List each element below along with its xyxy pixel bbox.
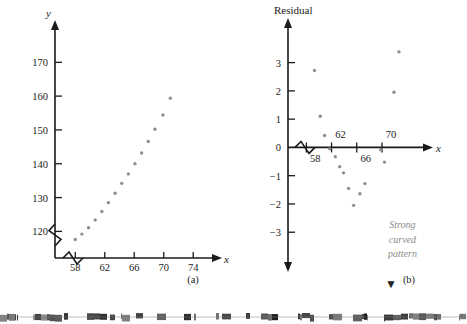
- y-tick-label: 0: [276, 142, 281, 153]
- x-tick-label: 70: [386, 129, 397, 140]
- x-tick-label: 66: [129, 262, 140, 273]
- y-tick-label: 1: [276, 114, 281, 125]
- y-tick-label: 170: [32, 57, 48, 68]
- data-point: [80, 232, 83, 235]
- data-point: [140, 151, 143, 154]
- figure-residual-analysis: 5862667074120130140150160170xy 586266703…: [0, 0, 467, 324]
- panel-b-residual-plot: 586266703210−1−2−3xResidual: [233, 0, 467, 296]
- scatterplot-svg: 5862667074120130140150160170xy: [0, 0, 233, 296]
- x-axis-label: x: [223, 253, 229, 265]
- residual-point: [392, 91, 395, 94]
- data-point: [153, 128, 156, 131]
- data-point: [133, 162, 136, 165]
- annotation-line: Strong: [388, 218, 417, 233]
- y-tick-label: 2: [276, 86, 281, 97]
- data-point: [100, 210, 103, 213]
- residual-plot-svg: 586266703210−1−2−3xResidual: [233, 0, 467, 296]
- data-point: [161, 113, 164, 116]
- residual-point: [328, 147, 331, 150]
- residual-point: [379, 148, 382, 151]
- data-point: [127, 172, 130, 175]
- data-point: [87, 226, 90, 229]
- x-tick-label: 58: [70, 262, 81, 273]
- y-tick-label: −2: [270, 199, 281, 210]
- data-point: [120, 182, 123, 185]
- residual-point: [383, 160, 386, 163]
- y-tick-label: 140: [32, 159, 48, 170]
- residual-point: [347, 187, 350, 190]
- x-tick-label: 62: [100, 262, 111, 273]
- residual-point: [319, 115, 322, 118]
- curved-pattern-annotation: Strongcurvedpattern: [388, 218, 417, 262]
- residual-point: [334, 155, 337, 158]
- annotation-line: curved: [388, 233, 417, 248]
- data-point: [147, 140, 150, 143]
- y-tick-label: 160: [32, 91, 48, 102]
- y-axis-label: Residual: [274, 4, 313, 16]
- y-tick-label: 3: [276, 58, 281, 69]
- y-tick-label: −3: [270, 227, 281, 238]
- residual-point: [342, 171, 345, 174]
- residual-point: [363, 182, 366, 185]
- y-tick-label: 150: [32, 125, 48, 136]
- data-point: [107, 201, 110, 204]
- residual-point: [338, 165, 341, 168]
- page-artifact-mark: ▼: [385, 277, 397, 292]
- data-point: [169, 96, 172, 99]
- scan-artifact-strip: [0, 310, 467, 324]
- y-tick-label: −1: [270, 171, 281, 182]
- residual-point: [397, 50, 400, 53]
- residual-point: [323, 134, 326, 137]
- y-tick-label: 130: [32, 193, 48, 204]
- panel-a-scatterplot: 5862667074120130140150160170xy: [0, 0, 233, 296]
- y-tick-label: 120: [32, 226, 48, 237]
- x-tick-label: 66: [361, 153, 372, 164]
- residual-point: [358, 192, 361, 195]
- x-tick-label: 58: [310, 153, 321, 164]
- x-tick-label: 62: [335, 129, 346, 140]
- residual-point: [352, 204, 355, 207]
- x-tick-label: 70: [158, 262, 169, 273]
- annotation-line: pattern: [388, 247, 417, 262]
- caption-a: (a): [163, 274, 223, 285]
- data-point: [93, 218, 96, 221]
- data-point: [74, 238, 77, 241]
- x-tick-label: 74: [188, 262, 199, 273]
- residual-point: [313, 69, 316, 72]
- y-axis-label: y: [45, 7, 51, 19]
- data-point: [113, 191, 116, 194]
- x-axis-label: x: [435, 142, 441, 154]
